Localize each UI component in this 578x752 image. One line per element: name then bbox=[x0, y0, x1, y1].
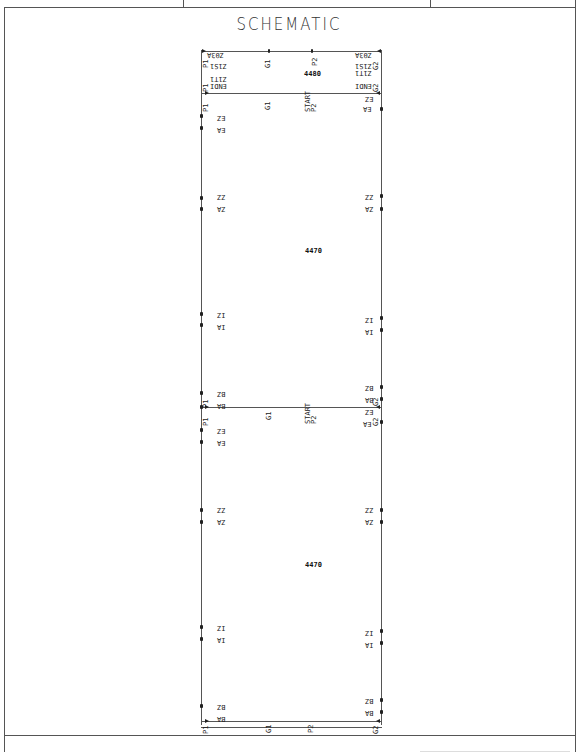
label-p1-bottom: P1 bbox=[203, 726, 210, 734]
label-bz-left-1: BZ bbox=[217, 390, 225, 397]
label-ez-left-2: EZ bbox=[217, 427, 225, 434]
dimension-4480: 4480 bbox=[304, 70, 321, 78]
label-zz-right-2: ZZ bbox=[365, 506, 373, 513]
terminal-dot-icon bbox=[200, 114, 203, 118]
label-g1-mid: G1 bbox=[266, 412, 273, 420]
label-za-right-2: ZA bbox=[365, 518, 373, 525]
label-ia-left-1: IA bbox=[217, 323, 225, 330]
label-ba-right-2: BA bbox=[365, 709, 373, 716]
arrow-icon bbox=[376, 405, 380, 409]
label-ez-right-2: EZ bbox=[365, 408, 373, 415]
terminal-dot-icon bbox=[200, 196, 203, 200]
terminal-dot-icon bbox=[380, 316, 383, 320]
label-iz-right-2: IZ bbox=[365, 629, 373, 636]
panel-mid-rail bbox=[201, 407, 382, 408]
terminal-dot-icon bbox=[200, 323, 203, 327]
arrow-icon bbox=[376, 719, 380, 723]
frame-left-line bbox=[4, 7, 5, 752]
frame-top-line bbox=[4, 7, 576, 8]
label-za-right-1: ZA bbox=[365, 205, 373, 212]
arrow-icon bbox=[205, 91, 209, 95]
terminal-dot-icon bbox=[200, 520, 203, 524]
label-bz-right-2: BZ bbox=[365, 697, 373, 704]
label-g2-mid-2: G2 bbox=[373, 418, 380, 426]
label-za-left-2: ZA bbox=[217, 518, 225, 525]
terminal-dot-icon bbox=[200, 207, 203, 211]
arrow-icon bbox=[205, 405, 209, 409]
panel-upper-rail bbox=[201, 93, 382, 94]
frame-bottom-line bbox=[4, 735, 576, 736]
label-z03a-right: Z03A bbox=[355, 51, 372, 58]
label-za-left-1: ZA bbox=[217, 205, 225, 212]
label-p2-bottom: P2 bbox=[308, 725, 315, 733]
label-ea-right-2: EA bbox=[363, 420, 371, 427]
arrow-icon bbox=[376, 91, 380, 95]
terminal-dot-icon bbox=[380, 207, 383, 211]
arrow-icon bbox=[377, 49, 381, 53]
label-ea-left-2: EA bbox=[217, 439, 225, 446]
label-ea-left-1: EA bbox=[217, 126, 225, 133]
terminal-dot-icon bbox=[200, 391, 203, 395]
label-z1s1-right: Z1S1 bbox=[355, 62, 372, 69]
terminal-dot-icon bbox=[380, 328, 383, 332]
dimension-upper-panel: 4470 bbox=[305, 247, 322, 255]
terminal-dot-icon bbox=[380, 107, 383, 111]
label-iz-right-1: IZ bbox=[365, 316, 373, 323]
terminal-dot-icon bbox=[380, 385, 383, 389]
label-g1-top: G1 bbox=[265, 60, 272, 68]
label-p2-mid: P2 bbox=[311, 416, 318, 424]
arrow-icon bbox=[205, 719, 209, 723]
arrow-icon bbox=[202, 49, 206, 53]
terminal-dot-icon bbox=[268, 49, 270, 53]
label-ez-right-1: EZ bbox=[365, 95, 373, 102]
label-p2-top: P2 bbox=[312, 58, 319, 66]
label-ia-right-1: IA bbox=[365, 328, 373, 335]
label-ba-left-1: BA bbox=[217, 402, 225, 409]
label-g2-bottom: G2 bbox=[373, 726, 380, 734]
header-divider-1 bbox=[183, 0, 184, 7]
label-iz-left-1: IZ bbox=[217, 311, 225, 318]
label-p1-top: P1 bbox=[203, 60, 210, 68]
label-p1-upper: P1 bbox=[203, 104, 210, 112]
terminal-dot-icon bbox=[380, 420, 383, 424]
panel-left-edge bbox=[201, 50, 202, 725]
label-zz-left-1: ZZ bbox=[217, 193, 225, 200]
label-g2-top: G2 bbox=[373, 62, 380, 70]
terminal-dot-icon bbox=[200, 126, 203, 130]
panel-bottom-rail-1 bbox=[201, 721, 382, 722]
label-bz-right-1: BZ bbox=[365, 384, 373, 391]
terminal-dot-icon bbox=[380, 397, 383, 401]
label-bz-left-2: BZ bbox=[217, 703, 225, 710]
terminal-dot-icon bbox=[200, 637, 203, 641]
frame-right-line bbox=[575, 0, 576, 752]
terminal-dot-icon bbox=[380, 710, 383, 714]
terminal-dot-icon bbox=[200, 625, 203, 629]
label-endi-left: ENDI bbox=[210, 82, 227, 89]
label-z1t1-left: Z1T1 bbox=[210, 75, 227, 82]
header-divider-2 bbox=[430, 0, 431, 7]
label-z03a-left: Z03A bbox=[207, 51, 224, 58]
label-z1s1-left: Z1S1 bbox=[210, 62, 227, 69]
terminal-dot-icon bbox=[200, 312, 203, 316]
terminal-dot-icon bbox=[200, 428, 203, 432]
label-endi-right: ENDI bbox=[355, 82, 372, 89]
terminal-dot-icon bbox=[380, 641, 383, 645]
label-g1-bottom: G1 bbox=[266, 725, 273, 733]
label-ia-left-2: IA bbox=[217, 636, 225, 643]
label-p1-mid-2: P1 bbox=[203, 418, 210, 426]
label-z1t1-right: Z1T1 bbox=[355, 69, 372, 76]
terminal-dot-icon bbox=[380, 698, 383, 702]
label-p2-upper: P2 bbox=[311, 104, 318, 112]
panel-bottom-rail-2 bbox=[201, 727, 382, 728]
terminal-dot-icon bbox=[380, 520, 383, 524]
terminal-dot-icon bbox=[200, 405, 203, 409]
terminal-dot-icon bbox=[380, 508, 383, 512]
label-ia-right-2: IA bbox=[365, 641, 373, 648]
label-ba-left-2: BA bbox=[217, 715, 225, 722]
label-ea-right-1: EA bbox=[363, 105, 371, 112]
label-zz-left-2: ZZ bbox=[217, 506, 225, 513]
label-ez-left-1: EZ bbox=[217, 114, 225, 121]
terminal-dot-icon bbox=[200, 440, 203, 444]
terminal-dot-icon bbox=[380, 629, 383, 633]
terminal-dot-icon bbox=[200, 508, 203, 512]
